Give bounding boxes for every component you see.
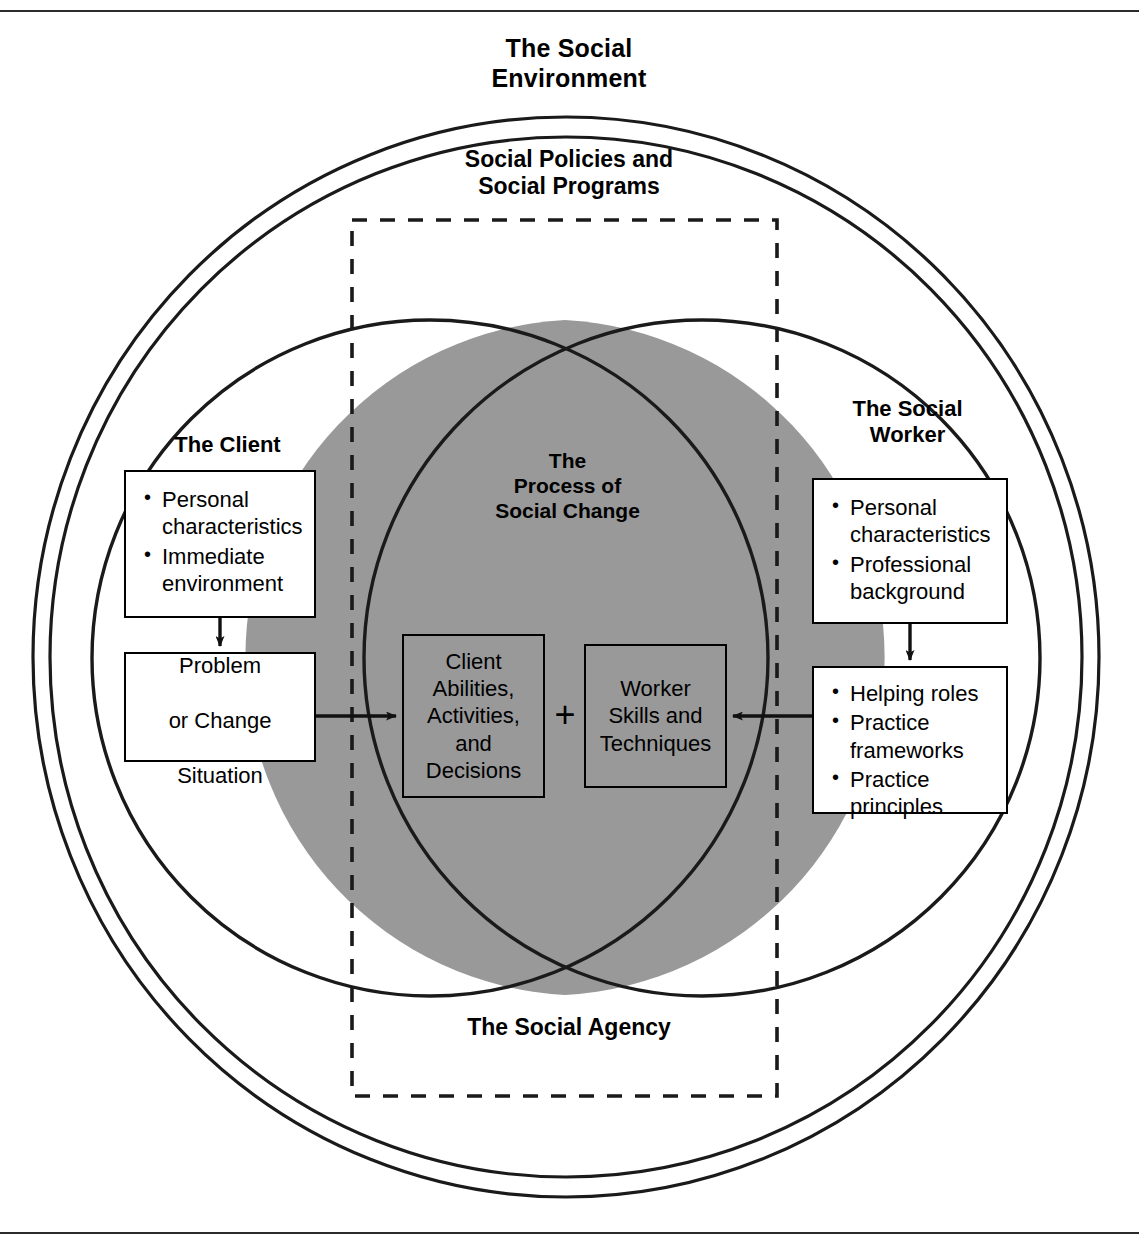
label-process-of-social-change: The Process of Social Change (470, 449, 665, 523)
lens-process-of-social-change (245, 320, 884, 995)
list-item: Helping roles (828, 680, 1000, 707)
list-item: Practice principles (828, 766, 1000, 821)
plus-sign: + (545, 697, 585, 733)
label-the-social-worker: The Social Worker (800, 396, 1015, 448)
list-item: Professional background (828, 551, 1000, 606)
client-attributes-list: Personal characteristics Immediate envir… (140, 486, 308, 597)
client-abilities-line-3: Activities, (427, 703, 520, 728)
label-the-client: The Client (120, 432, 335, 458)
worker-skills-line-2: Skills and (608, 703, 702, 728)
worker-attributes-list: Personal characteristics Professional ba… (828, 494, 1000, 605)
box-worker-attributes: Personal characteristics Professional ba… (812, 478, 1008, 624)
worker-skills-line-1: Worker (620, 676, 691, 701)
box-worker-practice: Helping roles Practice frameworks Practi… (812, 666, 1008, 814)
worker-practice-list: Helping roles Practice frameworks Practi… (828, 680, 1000, 820)
label-social-policies-and-programs: Social Policies and Social Programs (369, 146, 769, 200)
figure-container: The Social Environment Social Policies a… (0, 0, 1139, 1248)
client-abilities-line-2: Abilities, (433, 676, 515, 701)
client-abilities-line-1: Client (445, 649, 501, 674)
box-client-abilities-text: Client Abilities, Activities, and Decisi… (426, 648, 521, 784)
box-problem-text: Problem or Change Situation (169, 625, 272, 789)
problem-line-3: Situation (177, 763, 263, 788)
client-abilities-line-5: Decisions (426, 758, 521, 783)
box-worker-skills-text: Worker Skills and Techniques (600, 675, 711, 757)
label-social-environment: The Social Environment (369, 34, 769, 93)
worker-skills-line-3: Techniques (600, 731, 711, 756)
box-client-attributes: Personal characteristics Immediate envir… (124, 470, 316, 618)
label-social-agency: The Social Agency (369, 1014, 769, 1041)
list-item: Personal characteristics (140, 486, 308, 541)
list-item: Practice frameworks (828, 709, 1000, 764)
box-problem-or-change-situation: Problem or Change Situation (124, 652, 316, 762)
problem-line-2: or Change (169, 708, 272, 733)
client-abilities-line-4: and (455, 731, 492, 756)
list-item: Personal characteristics (828, 494, 1000, 549)
box-client-abilities-activities-decisions: Client Abilities, Activities, and Decisi… (402, 634, 545, 798)
list-item: Immediate environment (140, 543, 308, 598)
box-worker-skills-and-techniques: Worker Skills and Techniques (584, 644, 727, 788)
problem-line-1: Problem (179, 653, 261, 678)
